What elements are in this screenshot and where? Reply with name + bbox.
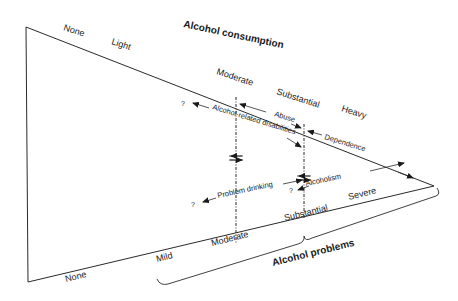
consumption-level-heavy: Heavy bbox=[340, 103, 368, 121]
consumption-axis-title: Alcohol consumption bbox=[183, 18, 285, 50]
problems-level-moderate: Moderate bbox=[210, 229, 249, 248]
relation-problem-drinking: ? Problem drinking bbox=[191, 179, 302, 208]
problems-level-substantial: Substantial bbox=[283, 202, 329, 222]
consumption-level-moderate: Moderate bbox=[215, 66, 254, 87]
problems-axis-labels: None Mild Moderate Substantial Severe Al… bbox=[64, 185, 439, 284]
unknown-marker-alcoholism: ? bbox=[289, 187, 293, 194]
problems-level-severe: Severe bbox=[347, 185, 377, 202]
left-edge-line bbox=[26, 27, 28, 282]
disabilities-arrow-left bbox=[193, 103, 209, 108]
problem-drinking-label: Problem drinking bbox=[217, 179, 274, 200]
unknown-marker-disabilities: ? bbox=[181, 100, 185, 107]
dependence-label: Dependence bbox=[323, 132, 366, 153]
problems-level-none: None bbox=[64, 269, 87, 284]
problems-level-mild: Mild bbox=[155, 250, 173, 264]
unknown-marker-problem-drinking: ? bbox=[191, 201, 195, 208]
disabilities-arrow-right bbox=[287, 138, 301, 147]
consumption-level-none: None bbox=[62, 22, 86, 38]
triangle-frame bbox=[26, 27, 434, 282]
relation-dependence: Dependence bbox=[308, 131, 413, 178]
alcoholism-arrow-right bbox=[370, 163, 404, 171]
problems-axis-title: Alcohol problems bbox=[271, 237, 356, 268]
problem-drinking-arrow-left bbox=[203, 198, 216, 202]
problem-drinking-arrow-right bbox=[283, 180, 302, 184]
dependence-arrow-right bbox=[398, 172, 413, 178]
alcohol-consumption-problems-diagram: Alcohol consumption None Light Moderate … bbox=[0, 0, 458, 301]
alcoholism-label: Alcoholism bbox=[305, 172, 342, 188]
consumption-level-substantial: Substantial bbox=[275, 86, 320, 109]
alcohol-problems-brace bbox=[157, 188, 439, 284]
relation-alcohol-related-disabilities: ? Alcohol-related disabilities bbox=[181, 100, 301, 147]
dependence-arrow-left bbox=[308, 131, 322, 135]
consumption-level-light: Light bbox=[110, 36, 132, 52]
